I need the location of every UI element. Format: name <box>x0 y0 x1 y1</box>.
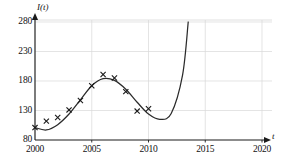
y-tick-label: 230 <box>18 46 32 56</box>
data-point-marker <box>44 119 49 124</box>
x-tick-label: 2015 <box>185 144 225 154</box>
chart-figure: 80130180230280 20002005201020152020 I(t)… <box>0 0 281 161</box>
data-point-marker <box>78 98 83 103</box>
data-point-marker <box>55 115 60 120</box>
x-tick-label: 2005 <box>72 144 112 154</box>
fitted-curve <box>35 22 188 130</box>
y-axis-title: I(t) <box>37 2 49 12</box>
x-tick-label: 2020 <box>242 144 281 154</box>
x-tick-label: 2010 <box>129 144 169 154</box>
data-point-marker <box>66 107 71 112</box>
data-point-marker <box>101 72 106 77</box>
axis-lines <box>32 13 271 143</box>
y-tick-label: 80 <box>23 134 32 144</box>
y-tick-label: 180 <box>18 75 32 85</box>
x-tick-label: 2000 <box>15 144 55 154</box>
x-axis-title: t <box>272 131 275 141</box>
y-tick-label: 130 <box>18 105 32 115</box>
gridlines <box>35 20 272 140</box>
y-tick-label: 280 <box>18 16 32 26</box>
chart-plot-area <box>0 0 281 161</box>
data-point-marker <box>135 108 140 113</box>
